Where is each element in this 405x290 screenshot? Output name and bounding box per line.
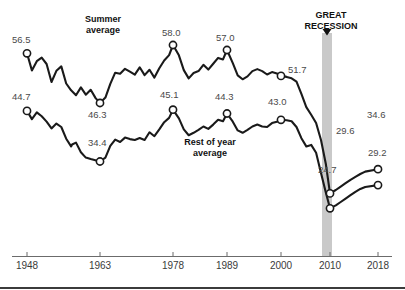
great-recession-label-line1: GREAT: [304, 10, 357, 21]
x-tick-label-2018: 2018: [367, 260, 389, 271]
value-label-summer-1989: 57.0: [216, 33, 235, 44]
chart-container: 56.5 46.3 58.0 57.0 51.7 29.6 34.6 44.7 …: [0, 0, 405, 290]
value-label-summer-2010: 29.6: [336, 126, 355, 137]
x-tick-label-2010: 2010: [319, 260, 341, 271]
x-tick-label-1948: 1948: [16, 260, 38, 271]
x-tick-label-1989: 1989: [216, 260, 238, 271]
data-point-marker: [23, 107, 30, 114]
value-label-summer-2000: 51.7: [288, 65, 307, 76]
data-point-marker: [169, 41, 176, 48]
data-point-marker: [277, 116, 284, 123]
great-recession-label-line2: RECESSION: [304, 21, 357, 32]
summer-average-label-line2: average: [85, 25, 121, 36]
data-point-marker: [277, 72, 284, 79]
x-tick-label-1963: 1963: [89, 260, 111, 271]
data-point-marker: [223, 46, 230, 53]
x-tick-label-1978: 1978: [162, 260, 184, 271]
value-label-rest-1978: 45.1: [160, 90, 179, 101]
summer-average-label: Summer average: [85, 14, 121, 36]
data-point-marker: [326, 190, 333, 197]
rest-of-year-average-label: Rest of year average: [184, 137, 236, 159]
value-label-rest-2010: 24.7: [318, 165, 337, 176]
rest-of-year-average-label-line1: Rest of year: [184, 137, 236, 148]
data-point-marker: [374, 182, 381, 189]
value-label-rest-2018: 29.2: [368, 148, 387, 159]
x-tick-label-2000: 2000: [270, 260, 292, 271]
great-recession-band: [322, 33, 332, 257]
value-label-rest-1989: 44.3: [215, 92, 234, 103]
value-label-summer-2018: 34.6: [367, 110, 386, 121]
data-point-marker: [326, 205, 333, 212]
data-point-marker: [169, 106, 176, 113]
data-point-marker: [223, 110, 230, 117]
data-point-marker: [374, 166, 381, 173]
value-label-rest-1963: 34.4: [88, 138, 107, 149]
summer-average-label-line1: Summer: [85, 14, 121, 25]
great-recession-label: GREAT RECESSION: [304, 10, 357, 32]
data-point-marker: [96, 158, 103, 165]
value-label-summer-1963: 46.3: [88, 110, 107, 121]
value-label-summer-1948: 56.5: [12, 35, 31, 46]
value-label-summer-1978: 58.0: [162, 28, 181, 39]
value-label-rest-1948: 44.7: [12, 92, 31, 103]
data-point-marker: [23, 50, 30, 57]
bottom-divider: [0, 287, 405, 289]
rest-of-year-average-label-line2: average: [184, 148, 236, 159]
value-label-rest-2000: 43.0: [268, 97, 287, 108]
data-point-marker: [96, 99, 103, 106]
